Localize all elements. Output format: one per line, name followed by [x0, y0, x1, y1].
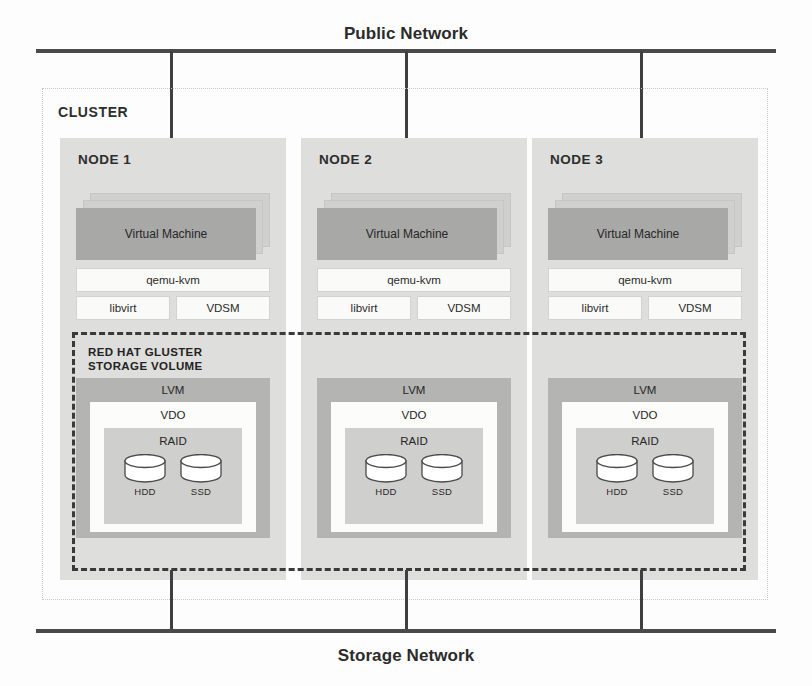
node-3-libvirt: libvirt	[548, 296, 642, 320]
node-2-vdo-label: VDO	[331, 409, 497, 421]
disk-cylinder-icon	[123, 454, 167, 484]
node-2-raid: RAID HDD	[345, 428, 483, 524]
node-1-label: NODE 1	[78, 152, 131, 167]
node-1-vdsm: VDSM	[176, 296, 270, 320]
connector-node-1-storage	[170, 570, 173, 631]
storage-network-bar	[36, 629, 776, 633]
node-3: NODE 3 Virtual Machine qemu-kvm libvirt …	[532, 138, 758, 580]
node-1-vdo: VDO RAID HDD	[90, 402, 256, 532]
node-1-lvm-label: LVM	[76, 384, 270, 396]
node-2-disk-ssd: SSD	[420, 454, 464, 497]
node-3-label: NODE 3	[550, 152, 603, 167]
node-3-raid-label: RAID	[576, 435, 714, 447]
node-1-qemu-kvm: qemu-kvm	[76, 268, 270, 292]
connector-node-2-storage	[405, 570, 408, 631]
disk-cylinder-icon	[651, 454, 695, 484]
node-1-disk-ssd-label: SSD	[191, 486, 211, 497]
node-1-disks: HDD SSD	[104, 454, 242, 497]
node-2-raid-label: RAID	[345, 435, 483, 447]
node-3-disks: HDD SSD	[576, 454, 714, 497]
connector-node-3-storage	[640, 570, 643, 631]
node-1-raid-label: RAID	[104, 435, 242, 447]
node-3-disk-ssd: SSD	[651, 454, 695, 497]
node-1-disk-hdd: HDD	[123, 454, 167, 497]
node-3-vdo-label: VDO	[562, 409, 728, 421]
node-2-lvm-label: LVM	[317, 384, 511, 396]
node-3-disk-ssd-label: SSD	[663, 486, 683, 497]
node-3-disk-hdd: HDD	[595, 454, 639, 497]
node-1-lvm: LVM VDO RAID HDD	[76, 378, 270, 538]
node-3-qemu-kvm: qemu-kvm	[548, 268, 742, 292]
node-3-lvm-label: LVM	[548, 384, 742, 396]
node-3-vm-stack: Virtual Machine	[548, 193, 742, 265]
node-2-lvm: LVM VDO RAID HDD	[317, 378, 511, 538]
storage-network-label: Storage Network	[0, 646, 812, 666]
node-2-label: NODE 2	[319, 152, 372, 167]
node-3-raid: RAID HDD	[576, 428, 714, 524]
node-2-disks: HDD SSD	[345, 454, 483, 497]
node-3-vdo: VDO RAID HDD	[562, 402, 728, 532]
node-2-libvirt: libvirt	[317, 296, 411, 320]
node-2-vdo: VDO RAID HDD	[331, 402, 497, 532]
disk-cylinder-icon	[420, 454, 464, 484]
node-1-disk-ssd: SSD	[179, 454, 223, 497]
node-3-lvm: LVM VDO RAID HDD	[548, 378, 742, 538]
disk-cylinder-icon	[364, 454, 408, 484]
node-2-qemu-kvm: qemu-kvm	[317, 268, 511, 292]
node-2-vdsm: VDSM	[417, 296, 511, 320]
node-2-vm-stack: Virtual Machine	[317, 193, 511, 265]
disk-cylinder-icon	[595, 454, 639, 484]
node-2-disk-hdd-label: HDD	[375, 486, 396, 497]
node-2-disk-hdd: HDD	[364, 454, 408, 497]
gluster-storage-volume-label: RED HAT GLUSTER STORAGE VOLUME	[88, 345, 203, 373]
node-1-raid: RAID HDD	[104, 428, 242, 524]
node-1-virtual-machine: Virtual Machine	[76, 208, 256, 260]
disk-cylinder-icon	[179, 454, 223, 484]
node-3-disk-hdd-label: HDD	[606, 486, 627, 497]
node-2: NODE 2 Virtual Machine qemu-kvm libvirt …	[301, 138, 527, 580]
node-1-disk-hdd-label: HDD	[134, 486, 155, 497]
node-2-virtual-machine: Virtual Machine	[317, 208, 497, 260]
node-3-virtual-machine: Virtual Machine	[548, 208, 728, 260]
node-2-disk-ssd-label: SSD	[432, 486, 452, 497]
node-1-libvirt: libvirt	[76, 296, 170, 320]
node-1-vdo-label: VDO	[90, 409, 256, 421]
cluster-label: CLUSTER	[58, 104, 128, 120]
public-network-label: Public Network	[0, 24, 812, 44]
node-3-vdsm: VDSM	[648, 296, 742, 320]
node-1-vm-stack: Virtual Machine	[76, 193, 270, 265]
architecture-diagram: Public Network CLUSTER NODE 1 Virtual Ma…	[0, 0, 812, 686]
